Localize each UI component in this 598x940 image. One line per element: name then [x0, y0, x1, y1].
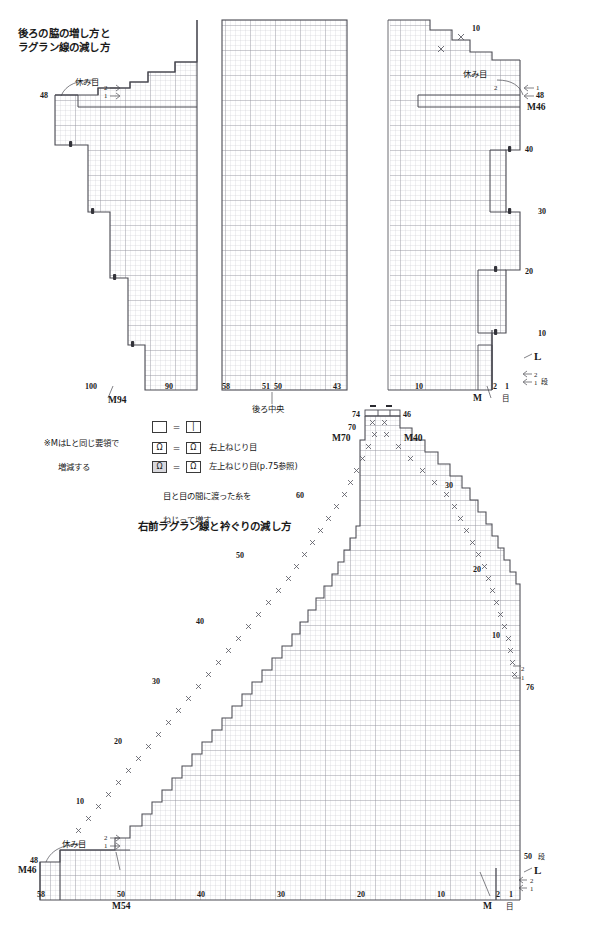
front-row-1: 1	[530, 884, 533, 893]
front-row-50: 50	[524, 852, 532, 861]
front-left-step-20: 20	[114, 737, 122, 746]
front-xtick-50: 50	[117, 890, 125, 899]
front-label-L: L	[534, 866, 541, 875]
back-xtick-50: 50	[274, 382, 282, 391]
front-chart-title: 右前ラグラン線と衿ぐりの減し方	[138, 519, 291, 533]
front-right-step-20: 20	[473, 565, 481, 574]
back-row-10-top-right: 10	[472, 24, 480, 33]
legend-row-0: = |	[152, 421, 201, 433]
back-row-40: 40	[525, 145, 533, 154]
back-row-1: 1	[534, 378, 537, 387]
back-hold-stitches-right: 休み目	[463, 70, 487, 79]
back-xtick-100: 100	[85, 382, 97, 391]
front-axis-M: M	[483, 902, 492, 911]
legend-symbol-right-2: Ω	[186, 461, 201, 473]
legend-equals-1: =	[173, 443, 181, 453]
back-right-xtick-1: 1	[505, 382, 509, 391]
back-right-xtick-2: 2	[493, 382, 497, 391]
front-left-step-10: 10	[76, 797, 84, 806]
legend-equals-2: =	[173, 462, 181, 472]
legend-note-M: ※MはLと同じ要領で 増減する	[33, 425, 119, 485]
back-row-48-right: 48	[536, 91, 544, 100]
legend-row-1: Ω = Ω 右上ねじり目	[152, 440, 257, 454]
legend-row-2: Ω = Ω 左上ねじり目(p.75参照)	[152, 459, 298, 473]
front-xtick-20: 20	[357, 890, 365, 899]
knitting-chart-page: 後ろの脇の増し方と ラグラン線の減し方 休み目 2 1 48 100 90 M9…	[0, 0, 598, 940]
back-xtick-51: 51	[262, 382, 270, 391]
back-right-panel-grid	[388, 20, 523, 392]
front-xtick-30: 30	[277, 890, 285, 899]
legend-note-M-line2: 増減する	[58, 462, 90, 472]
front-hold-stitches: 休み目	[62, 840, 86, 849]
back-chart-title: 後ろの脇の増し方と ラグラン線の減し方	[18, 26, 110, 54]
front-axis-M54: M54	[112, 902, 130, 911]
front-left-step-50: 50	[236, 551, 244, 560]
front-xtick-58: 58	[37, 890, 45, 899]
front-right-step-2: 2	[521, 664, 524, 673]
back-center-label: 後ろ中央	[252, 405, 284, 414]
front-right-step-76: 76	[526, 683, 534, 692]
back-step-2-right: 2	[494, 83, 497, 92]
front-xtick-1: 1	[509, 890, 513, 899]
legend-equals-0: =	[173, 422, 181, 432]
back-row-30: 30	[538, 207, 546, 216]
back-hold-stitches-left: 休み目	[75, 78, 99, 87]
back-left-panel-grid	[55, 20, 200, 392]
legend-note-M-line1: ※MはLと同じ要領で	[44, 438, 119, 448]
front-right-step-10: 10	[492, 631, 500, 640]
back-row-20: 20	[525, 267, 533, 276]
legend-footnote-line1: 目と目の間に渡った糸を	[163, 491, 251, 501]
front-x-unit: 目	[506, 902, 513, 911]
front-right-step-30: 30	[445, 481, 453, 490]
back-xtick-90: 90	[165, 382, 173, 391]
back-right-axis-M: M	[473, 394, 482, 403]
front-xtick-40: 40	[197, 890, 205, 899]
front-left-step-40: 40	[196, 617, 204, 626]
front-row-unit: 段	[538, 853, 545, 862]
back-right-xtick-10: 10	[415, 382, 423, 391]
front-top-mark-46: 46	[403, 410, 411, 419]
back-right-x-unit: 目	[502, 394, 509, 403]
front-left-step-60: 60	[296, 491, 304, 500]
front-row-M46: M46	[18, 866, 36, 875]
legend-symbol-left-1: Ω	[152, 442, 167, 454]
back-xtick-58: 58	[222, 382, 230, 391]
neck-notch-marks	[370, 405, 392, 407]
back-row-48-left: 48	[40, 91, 48, 100]
back-chart-title-line2: ラグラン線の減し方	[18, 41, 110, 53]
front-top-mark-74: 74	[352, 410, 360, 419]
front-row-48: 48	[30, 856, 38, 865]
legend-text-1: 右上ねじり目	[209, 442, 257, 452]
front-right-step-M40: M40	[404, 434, 422, 443]
back-row-10: 10	[538, 329, 546, 338]
legend-symbol-right-1: Ω	[186, 442, 201, 454]
front-left-step-30: 30	[152, 677, 160, 686]
front-left-step-M70: M70	[332, 434, 350, 443]
back-axis-M94: M94	[108, 396, 126, 405]
back-chart-title-line1: 後ろの脇の増し方と	[18, 27, 110, 39]
back-step-1-left: 1	[104, 91, 107, 100]
legend-symbol-left-0	[152, 421, 167, 433]
back-row-M46: M46	[527, 103, 545, 112]
front-left-step-70: 70	[348, 423, 356, 432]
back-xtick-43: 43	[333, 382, 341, 391]
front-xtick-2: 2	[496, 890, 500, 899]
front-xtick-10: 10	[437, 890, 445, 899]
front-step-1: 1	[104, 841, 107, 850]
front-right-step-1: 1	[521, 673, 524, 682]
legend-text-2: 左上ねじり目(p.75参照)	[209, 461, 298, 471]
back-mid-panel-grid	[222, 20, 347, 390]
legend-symbol-right-0: |	[186, 421, 201, 433]
back-row-unit: 段	[541, 378, 548, 387]
legend-symbol-left-2: Ω	[152, 461, 167, 473]
back-label-L: L	[534, 352, 541, 361]
